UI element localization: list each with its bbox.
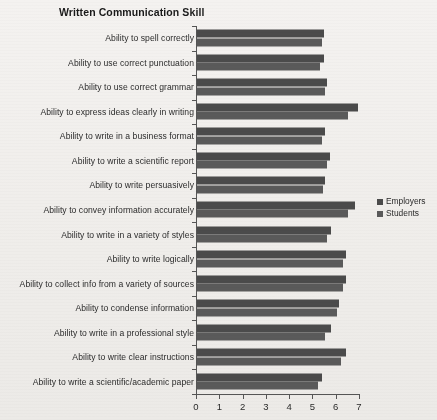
- category-label: Ability to write in a variety of styles: [61, 230, 194, 240]
- bar-students: [197, 259, 343, 267]
- bar-students: [197, 136, 322, 144]
- value-tick: [359, 395, 360, 399]
- bar-employers: [197, 349, 346, 357]
- value-tick-label: 0: [193, 401, 198, 412]
- bar-row: Ability to collect info from a variety o…: [0, 271, 437, 296]
- bar-employers: [197, 54, 324, 62]
- value-tick: [243, 395, 244, 399]
- bar-employers: [197, 226, 331, 234]
- bar-group: [197, 300, 397, 317]
- bar-group: [197, 373, 397, 390]
- bar-students: [197, 112, 348, 120]
- bar-employers: [197, 128, 325, 136]
- bar-row: Ability to write in a variety of styles: [0, 222, 437, 247]
- bar-employers: [197, 201, 355, 209]
- bar-group: [197, 177, 397, 194]
- legend-swatch-icon: [377, 211, 383, 217]
- bar-employers: [197, 251, 346, 259]
- value-tick-label: 1: [217, 401, 222, 412]
- value-tick: [336, 395, 337, 399]
- bar-students: [197, 235, 327, 243]
- value-tick-label: 2: [240, 401, 245, 412]
- bar-group: [197, 251, 397, 268]
- bar-students: [197, 185, 323, 193]
- category-tick: [192, 51, 197, 52]
- bar-students: [197, 63, 320, 71]
- bar-students: [197, 161, 327, 169]
- bar-row: Ability to write a scientific/academic p…: [0, 369, 437, 394]
- bar-employers: [197, 152, 330, 160]
- category-tick: [192, 222, 197, 223]
- bar-row: Ability to write clear instructions: [0, 345, 437, 370]
- legend-item: Employers: [377, 196, 426, 207]
- bar-row: Ability to write in a professional style: [0, 320, 437, 345]
- bar-row: Ability to write persuasively: [0, 173, 437, 198]
- chart-container: Written Communication Skill Ability to s…: [0, 0, 437, 420]
- category-tick: [192, 345, 197, 346]
- category-tick: [192, 296, 197, 297]
- legend-label: Students: [386, 208, 419, 219]
- category-label: Ability to write a scientific/academic p…: [33, 377, 194, 387]
- category-tick: [192, 100, 197, 101]
- bar-group: [197, 128, 397, 145]
- bar-students: [197, 382, 318, 390]
- legend-swatch-icon: [377, 199, 383, 205]
- bar-group: [197, 226, 397, 243]
- bar-students: [197, 333, 325, 341]
- bar-students: [197, 210, 348, 218]
- bar-students: [197, 87, 325, 95]
- bar-group: [197, 349, 397, 366]
- bar-row: Ability to write a scientific report: [0, 149, 437, 174]
- category-label: Ability to write clear instructions: [72, 352, 194, 362]
- bar-students: [197, 308, 337, 316]
- category-label: Ability to convey information accurately: [43, 205, 194, 215]
- bar-employers: [197, 79, 327, 87]
- category-tick: [192, 198, 197, 199]
- category-tick: [192, 149, 197, 150]
- bar-employers: [197, 373, 322, 381]
- category-tick: [192, 394, 197, 395]
- category-tick: [192, 271, 197, 272]
- category-tick: [192, 26, 197, 27]
- category-label: Ability to spell correctly: [105, 33, 194, 43]
- bar-row: Ability to spell correctly: [0, 26, 437, 51]
- category-label: Ability to use correct grammar: [78, 82, 194, 92]
- category-label: Ability to use correct punctuation: [68, 58, 194, 68]
- value-tick: [312, 395, 313, 399]
- legend-label: Employers: [386, 196, 426, 207]
- category-tick: [192, 369, 197, 370]
- category-label: Ability to condense information: [75, 303, 194, 313]
- category-tick: [192, 173, 197, 174]
- category-label: Ability to express ideas clearly in writ…: [40, 107, 194, 117]
- bar-row: Ability to convey information accurately: [0, 198, 437, 223]
- bar-employers: [197, 30, 324, 38]
- bar-row: Ability to write in a business format: [0, 124, 437, 149]
- value-tick-label: 5: [310, 401, 315, 412]
- category-label: Ability to collect info from a variety o…: [20, 279, 194, 289]
- category-label: Ability to write logically: [107, 254, 194, 264]
- category-tick: [192, 124, 197, 125]
- value-tick-label: 7: [356, 401, 361, 412]
- bar-row: Ability to write logically: [0, 247, 437, 272]
- bar-employers: [197, 177, 325, 185]
- chart-legend: EmployersStudents: [377, 196, 426, 220]
- value-tick: [219, 395, 220, 399]
- category-label: Ability to write in a professional style: [54, 328, 194, 338]
- value-tick: [196, 395, 197, 399]
- bar-employers: [197, 300, 339, 308]
- bar-row: Ability to condense information: [0, 296, 437, 321]
- bar-students: [197, 284, 343, 292]
- legend-item: Students: [377, 208, 426, 219]
- bar-row: Ability to express ideas clearly in writ…: [0, 100, 437, 125]
- value-tick-label: 4: [286, 401, 291, 412]
- value-tick: [266, 395, 267, 399]
- category-tick: [192, 247, 197, 248]
- value-tick-label: 6: [333, 401, 338, 412]
- category-label: Ability to write in a business format: [60, 131, 194, 141]
- bar-students: [197, 38, 322, 46]
- bar-group: [197, 30, 397, 47]
- bar-students: [197, 357, 341, 365]
- bar-employers: [197, 103, 358, 111]
- bar-group: [197, 54, 397, 71]
- category-tick: [192, 75, 197, 76]
